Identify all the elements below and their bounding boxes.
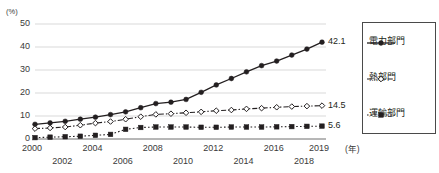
x-tick-label: 2018 [294,157,314,166]
data-point [183,110,189,116]
x-tick-label: 2019 [309,144,329,153]
chart-figure: (%) (年) 電力部門熱部門運輸部門 01020304050200020042… [0,0,439,173]
data-point [169,125,174,130]
data-point [244,125,249,130]
data-point [47,125,53,131]
data-point [304,47,309,52]
data-point [289,124,294,129]
y-tick-label: 0 [4,134,30,143]
data-point [63,134,68,139]
data-point [123,116,129,122]
y-tick-label: 50 [4,19,30,28]
data-point [214,125,219,130]
data-point [304,103,310,109]
data-point [138,125,143,130]
data-point [259,63,264,68]
data-point [78,122,84,128]
y-tick-label: 20 [4,88,30,97]
data-point [320,40,325,45]
series-end-label: 5.6 [328,121,341,130]
data-point [108,112,113,117]
data-point [93,120,99,126]
data-point [62,124,68,130]
data-point [199,90,204,95]
data-point [379,41,384,46]
data-point [289,104,295,110]
legend-item-熱部門[interactable]: 熱部門 [366,73,396,82]
data-point [198,109,204,115]
data-point [305,124,310,129]
y-tick-label: 40 [4,42,30,51]
y-tick-label: 30 [4,65,30,74]
series-電力部門 [33,40,325,127]
data-point [229,107,235,113]
data-point [199,125,204,130]
series-line [35,42,322,124]
data-point [48,135,53,140]
x-tick-label: 2016 [264,144,284,153]
data-point [379,113,384,118]
data-point [138,114,144,120]
data-point [274,125,279,130]
series-運輸部門 [33,124,325,140]
data-point [33,135,38,140]
legend-swatch-filled-circle [366,37,396,49]
data-point [274,59,279,64]
data-point [320,124,325,129]
x-tick-label: 2002 [52,157,72,166]
data-point [259,125,264,130]
data-point [78,117,83,122]
data-point [184,97,189,102]
data-point [274,104,280,110]
data-point [78,134,83,139]
data-point [169,100,174,105]
data-point [108,119,114,125]
x-tick-label: 2004 [82,144,102,153]
data-point [214,83,219,88]
data-point [184,125,189,130]
data-point [229,76,234,81]
x-tick-label: 2008 [143,144,163,153]
legend-item-電力部門[interactable]: 電力部門 [366,37,405,46]
legend-swatch-open-diamond [366,73,396,85]
legend-swatch-filled-square [366,109,396,121]
x-tick-label: 2012 [203,144,223,153]
data-point [32,126,38,132]
legend: 電力部門熱部門運輸部門 [362,22,436,134]
data-point [289,53,294,58]
data-point [154,125,159,130]
data-point [244,106,250,112]
data-point [213,108,219,114]
data-point [108,132,113,137]
data-point [378,76,384,82]
series-end-label: 42.1 [328,37,346,46]
y-tick-label: 10 [4,111,30,120]
data-point [229,125,234,130]
data-point [244,69,249,74]
legend-item-運輸部門[interactable]: 運輸部門 [366,109,405,118]
series-end-label: 14.5 [328,101,346,110]
data-point [319,103,325,109]
data-point [138,105,143,110]
data-point [93,133,98,138]
data-point [123,127,128,132]
data-point [259,105,265,111]
data-point [123,109,128,114]
x-tick-label: 2000 [22,144,42,153]
data-point [93,115,98,120]
data-point [63,119,68,124]
x-tick-label: 2006 [113,157,133,166]
x-tick-label: 2010 [173,157,193,166]
x-tick-label: 2014 [233,157,253,166]
data-point [153,101,158,106]
